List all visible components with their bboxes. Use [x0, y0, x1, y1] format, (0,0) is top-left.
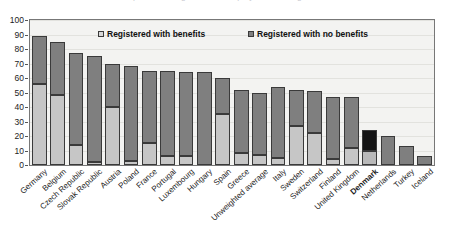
bar-column [307, 91, 322, 165]
bar-column [362, 130, 377, 165]
y-axis-tick-mark [25, 107, 28, 108]
legend-label: Registered with no benefits [257, 29, 368, 39]
y-axis-tick-mark [25, 93, 28, 94]
y-axis-tick-mark [25, 165, 28, 166]
y-axis-tick-mark [25, 151, 28, 152]
y-axis-tick-label: 40 [15, 103, 24, 111]
bar-column [417, 156, 432, 165]
bar-segment-no-benefits [87, 56, 102, 162]
y-axis-tick-mark [25, 64, 28, 65]
bar-segment-with-benefits [142, 143, 157, 165]
bar-segment-with-benefits [234, 153, 249, 165]
y-axis-tick-mark [25, 136, 28, 137]
bar-segment-no-benefits [381, 136, 396, 165]
bar-segment-with-benefits [307, 133, 322, 165]
bar-column [399, 146, 414, 165]
y-axis-tick-label: 90 [15, 31, 24, 39]
bar-segment-no-benefits [362, 130, 377, 150]
bar-segment-with-benefits [289, 126, 304, 165]
bar-column [160, 71, 175, 165]
bar-column [142, 71, 157, 165]
bar-column [32, 36, 47, 165]
bar-column [50, 42, 65, 165]
chart-figure: Proportion of registered unemployed rece… [0, 0, 455, 243]
legend-label: Registered with benefits [107, 29, 205, 39]
bar-column [252, 93, 267, 166]
x-axis-labels: GermanyBelgiumCzech RepublicSlovak Repub… [0, 167, 455, 243]
bar-column [271, 87, 286, 165]
bar-segment-no-benefits [160, 71, 175, 157]
bar-segment-no-benefits [252, 93, 267, 155]
legend-swatch-icon [248, 31, 254, 37]
bar-segment-no-benefits [417, 156, 432, 165]
bar-column [381, 136, 396, 165]
bar-segment-no-benefits [215, 78, 230, 114]
bar-segment-with-benefits [215, 114, 230, 165]
bar-segment-no-benefits [326, 97, 341, 159]
y-axis-tick-mark [25, 35, 28, 36]
bar-segment-with-benefits [105, 107, 120, 165]
bar-segment-with-benefits [252, 155, 267, 165]
bar-column [344, 97, 359, 165]
bar-column [197, 72, 212, 165]
bar-column [124, 66, 139, 165]
bar-column [105, 64, 120, 166]
y-axis-tick-label: 50 [15, 89, 24, 97]
bar-segment-no-benefits [234, 90, 249, 154]
bar-segment-no-benefits [32, 36, 47, 84]
bar-segment-no-benefits [179, 72, 194, 156]
bar-segment-no-benefits [289, 90, 304, 126]
bar-segment-with-benefits [160, 156, 175, 165]
bar-segment-with-benefits [69, 145, 84, 165]
bar-column [215, 78, 230, 165]
bar-segment-no-benefits [142, 71, 157, 144]
legend-item-registered-with-benefits: Registered with benefits [98, 29, 205, 39]
bar-column [179, 72, 194, 165]
bar-column [234, 90, 249, 165]
bar-segment-with-benefits [50, 95, 65, 165]
y-axis-tick-label: 60 [15, 74, 24, 82]
y-axis: 1009080706050403020100 [0, 19, 27, 166]
bar-segment-no-benefits [344, 97, 359, 148]
bar-segment-with-benefits [362, 151, 377, 166]
bar-segment-no-benefits [307, 91, 322, 133]
bar-segment-with-benefits [344, 148, 359, 165]
bar-segment-with-benefits [271, 158, 286, 165]
y-axis-tick-label: 100 [10, 16, 24, 24]
y-axis-tick-mark [25, 49, 28, 50]
bar-segment-with-benefits [32, 84, 47, 165]
legend-swatch-icon [98, 31, 104, 37]
bar-segment-no-benefits [105, 64, 120, 108]
bar-segment-no-benefits [50, 42, 65, 96]
bar-series-group [30, 20, 434, 165]
y-axis-tick-mark [25, 20, 28, 21]
bar-column [289, 90, 304, 165]
bar-segment-no-benefits [399, 146, 414, 165]
y-axis-tick-label: 80 [15, 45, 24, 53]
bar-segment-with-benefits [326, 159, 341, 165]
chart-title-clipped: Proportion of registered unemployed rece… [0, 0, 455, 3]
y-axis-tick-mark [25, 122, 28, 123]
bar-column [326, 97, 341, 165]
y-axis-tick-label: 30 [15, 118, 24, 126]
bar-segment-no-benefits [271, 87, 286, 158]
bar-column [87, 56, 102, 165]
bar-segment-with-benefits [179, 156, 194, 165]
y-axis-tick-label: 20 [15, 132, 24, 140]
y-axis-tick-label: 10 [15, 147, 24, 155]
bar-segment-with-benefits [87, 162, 102, 165]
bar-column [69, 53, 84, 165]
legend-item-registered-with-no-benefits: Registered with no benefits [248, 29, 368, 39]
bar-segment-no-benefits [197, 72, 212, 165]
bar-segment-no-benefits [124, 66, 139, 160]
bar-segment-with-benefits [124, 161, 139, 165]
bar-segment-no-benefits [69, 53, 84, 144]
y-axis-tick-mark [25, 78, 28, 79]
y-axis-tick-label: 70 [15, 60, 24, 68]
